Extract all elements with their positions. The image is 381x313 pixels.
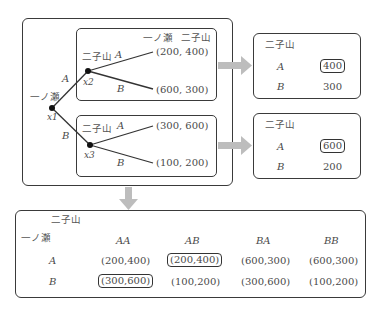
side-table-lower-row-b-label: B bbox=[277, 161, 284, 173]
root-branch-b: B bbox=[62, 130, 69, 142]
side-table-upper-header: 二子山 bbox=[265, 39, 295, 51]
matrix-cell-b-bb: (100,200) bbox=[309, 276, 358, 288]
matrix-cell-a-aa: (200,400) bbox=[101, 255, 150, 267]
lower-node-label: x3 bbox=[84, 149, 95, 161]
upper-player-label: 二子山 bbox=[82, 51, 112, 63]
matrix-row-player: 一ノ瀬 bbox=[21, 232, 51, 244]
side-table-lower-row-a-label: A bbox=[277, 141, 284, 153]
payoff-header-p2: 二子山 bbox=[181, 32, 211, 44]
upper-node-label: x2 bbox=[83, 76, 94, 88]
side-table-lower-header: 二子山 bbox=[265, 119, 295, 131]
side-table-lower-row-b-value: 200 bbox=[323, 161, 342, 173]
matrix-row-b-label: B bbox=[49, 276, 56, 288]
matrix-col-ba: BA bbox=[256, 235, 271, 247]
side-table-lower-row-a-value: 600 bbox=[320, 139, 345, 153]
matrix-col-player: 二子山 bbox=[51, 214, 81, 226]
matrix-cell-a-bb: (600,300) bbox=[309, 255, 358, 267]
root-branch-a: A bbox=[62, 73, 69, 85]
side-table-upper-row-a-value: 400 bbox=[320, 59, 345, 73]
lower-payoff-b: (100, 200) bbox=[156, 157, 208, 169]
side-table-upper-row-a-label: A bbox=[277, 61, 284, 73]
upper-payoff-a: (200, 400) bbox=[156, 46, 208, 58]
root-node-label: x1 bbox=[47, 111, 58, 123]
matrix-row-a-label: A bbox=[49, 255, 56, 267]
root-player-label: 一ノ瀬 bbox=[30, 91, 60, 103]
matrix-cell-b-ab: (100,200) bbox=[171, 276, 220, 288]
matrix-cell-a-ba: (600,300) bbox=[241, 255, 290, 267]
matrix-cell-b-ba: (300,600) bbox=[241, 276, 290, 288]
matrix-cell-b-aa: (300,600) bbox=[98, 274, 153, 288]
payoff-header-p1: 一ノ瀬 bbox=[143, 32, 173, 44]
lower-branch-b: B bbox=[117, 157, 124, 169]
side-table-upper-row-b-value: 300 bbox=[323, 81, 342, 93]
matrix-cell-a-ab: (200,400) bbox=[167, 253, 222, 267]
lower-branch-a: A bbox=[117, 120, 124, 132]
upper-branch-b: B bbox=[117, 83, 124, 95]
side-table-upper-row-b-label: B bbox=[277, 81, 284, 93]
lower-payoff-a: (300, 600) bbox=[156, 120, 208, 132]
matrix-col-ab: AB bbox=[185, 235, 200, 247]
upper-branch-a: A bbox=[115, 49, 122, 61]
lower-player-label: 二子山 bbox=[82, 123, 112, 135]
upper-payoff-b: (600, 300) bbox=[156, 84, 208, 96]
matrix-col-aa: AA bbox=[116, 235, 130, 247]
matrix-col-bb: BB bbox=[324, 235, 339, 247]
